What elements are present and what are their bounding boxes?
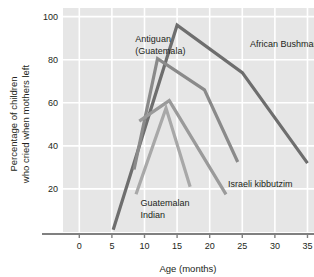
x-tick-label: 5	[109, 241, 114, 251]
x-tick-label: 10	[139, 241, 149, 251]
y-tick-label: 40	[48, 141, 58, 151]
series-label-antiguan-guatemala-line2: (Guatemala)	[135, 46, 185, 56]
x-axis-title: Age (months)	[159, 263, 216, 274]
series-label-israeli-kibbutzim: Israeli kibbutzim	[228, 179, 293, 189]
series-label-guatemalan-indian-line1: Guatemalan	[141, 198, 190, 208]
x-tick-label: 0	[77, 241, 82, 251]
x-tick-label: 30	[270, 241, 280, 251]
y-tick-labels-group: 20406080100	[43, 12, 58, 194]
chart-figure: 05101520253035 20406080100 African Bushm…	[0, 0, 314, 277]
x-tick-label: 35	[302, 241, 312, 251]
y-tick-label: 20	[48, 184, 58, 194]
x-tick-label: 25	[237, 241, 247, 251]
x-tick-label: 15	[172, 241, 182, 251]
series-label-guatemalan-indian-line2: Indian	[141, 210, 166, 220]
x-tick-label: 20	[205, 241, 215, 251]
y-tick-label: 100	[43, 12, 58, 22]
y-axis-title-line2: who cried when mothers left	[20, 65, 31, 185]
y-axis-title-line1: Percentage of children	[8, 76, 19, 171]
line-chart: 05101520253035 20406080100 African Bushm…	[0, 0, 314, 277]
y-tick-label: 80	[48, 55, 58, 65]
series-label-antiguan-guatemala-line1: Antiguan	[135, 34, 171, 44]
x-axis-title-group: Age (months)	[159, 263, 216, 274]
series-label-african-bushman: African Bushman	[250, 39, 314, 49]
y-axis-title-group: Percentage of children who cried when mo…	[8, 65, 31, 185]
x-tick-labels-group: 05101520253035	[77, 241, 313, 251]
y-tick-label: 60	[48, 98, 58, 108]
